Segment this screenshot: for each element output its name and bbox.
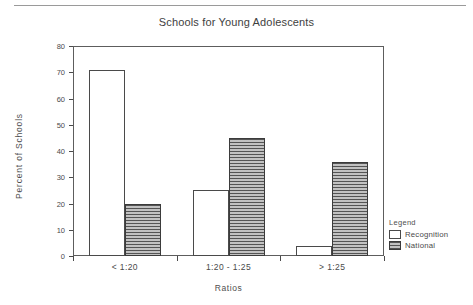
y-tick-label: 10 xyxy=(41,225,65,234)
x-category-label: > 1:25 xyxy=(287,262,377,272)
bar-recognition-2 xyxy=(296,246,332,257)
x-tick-mark xyxy=(280,256,281,261)
y-tick-label: 80 xyxy=(41,42,65,51)
x-axis-title: Ratios xyxy=(73,283,384,293)
legend: Legend Recognition National xyxy=(389,218,471,252)
x-tick-mark xyxy=(384,256,385,261)
legend-title: Legend xyxy=(389,218,471,227)
legend-item-national: National xyxy=(389,241,471,250)
y-tick-label: 0 xyxy=(41,252,65,261)
legend-label-national: National xyxy=(405,241,435,250)
y-tick-label: 50 xyxy=(41,120,65,129)
x-category-label: < 1:20 xyxy=(80,262,170,272)
legend-item-recognition: Recognition xyxy=(389,230,471,239)
x-tick-mark xyxy=(73,256,74,261)
chart-title: Schools for Young Adolescents xyxy=(0,16,473,28)
bars-layer xyxy=(73,46,384,256)
legend-swatch-recognition xyxy=(389,230,401,239)
y-tick-label: 30 xyxy=(41,173,65,182)
legend-swatch-national xyxy=(389,241,401,250)
bar-recognition-1 xyxy=(193,190,229,256)
bar-national-2 xyxy=(332,162,368,257)
legend-label-recognition: Recognition xyxy=(405,230,448,239)
bar-recognition-0 xyxy=(89,70,125,256)
y-tick-label: 20 xyxy=(41,199,65,208)
bar-national-1 xyxy=(229,138,265,256)
bar-chart-figure: Schools for Young Adolescents 0102030405… xyxy=(0,0,473,305)
x-tick-mark xyxy=(177,256,178,261)
y-tick-label: 60 xyxy=(41,94,65,103)
x-category-label: 1:20 - 1:25 xyxy=(184,262,274,272)
y-tick-label: 70 xyxy=(41,68,65,77)
bar-national-0 xyxy=(125,204,161,257)
y-axis-title: Percent of Schools xyxy=(14,106,24,206)
y-tick-label: 40 xyxy=(41,147,65,156)
